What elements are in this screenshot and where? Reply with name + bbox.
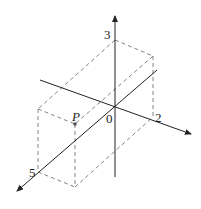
x-tick-label: 5 [29, 165, 36, 180]
coordinate-diagram: 3 2 5 0 P [0, 0, 201, 209]
y-tick-label: 2 [155, 110, 162, 125]
origin-label: 0 [106, 111, 113, 126]
point-p-label: P [71, 109, 80, 124]
axes [17, 16, 191, 191]
z-tick-label: 3 [104, 27, 111, 42]
box-dashed-edges [38, 40, 153, 187]
